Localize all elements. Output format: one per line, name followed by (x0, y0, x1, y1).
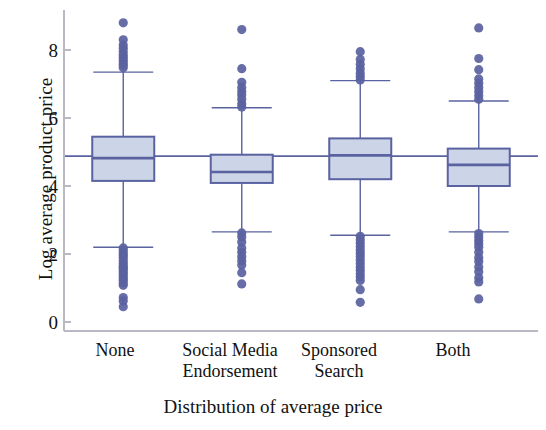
outlier-point (237, 260, 246, 269)
outlier-point (119, 18, 128, 27)
outlier-point (356, 276, 365, 285)
x-tick-label-sponsored-search: Sponsored Search (283, 340, 395, 382)
x-tick-label-both: Both (398, 340, 508, 361)
outlier-point (119, 63, 128, 72)
outlier-point (119, 281, 128, 290)
outlier-point (119, 302, 128, 311)
x-tick-line2: Search (283, 361, 395, 382)
y-tick-label-4: 4 (24, 176, 58, 198)
box-iqr (329, 138, 391, 179)
x-tick-label-social-media-endorsement: Social Media Endorsement (170, 340, 290, 382)
box-plot-chart: Log average product price 8 6 4 2 0 None… (0, 0, 546, 430)
y-tick-label-2: 2 (24, 244, 58, 266)
x-tick-line1: Social Media (170, 340, 290, 361)
outlier-point (356, 285, 365, 294)
outlier-point (237, 268, 246, 277)
x-axis-title: Distribution of average price (0, 396, 546, 418)
outlier-point (474, 54, 483, 63)
x-tick-line1: Both (398, 340, 508, 361)
box-plot-group-none (92, 18, 154, 311)
y-tick-label-8: 8 (24, 40, 58, 62)
outlier-point (237, 279, 246, 288)
box-plot-group-both (448, 23, 510, 303)
outlier-point (474, 95, 483, 104)
outlier-point (474, 23, 483, 32)
x-tick-label-none: None (60, 340, 170, 361)
outlier-point (237, 25, 246, 34)
outlier-point (237, 103, 246, 112)
x-tick-line2: Endorsement (170, 361, 290, 382)
box-plot-group-sponsored-search (329, 47, 391, 307)
y-tick-label-0: 0 (24, 312, 58, 334)
outlier-point (356, 298, 365, 307)
outlier-point (474, 65, 483, 74)
outlier-point (474, 277, 483, 286)
outlier-point (474, 294, 483, 303)
box-plot-group-social-media-endorsement (211, 25, 273, 289)
x-tick-line1: Sponsored (283, 340, 395, 361)
y-tick-label-6: 6 (24, 108, 58, 130)
box-iqr (211, 155, 273, 183)
outlier-point (356, 75, 365, 84)
outlier-point (237, 64, 246, 73)
x-tick-line1: None (60, 340, 170, 361)
box-iqr (448, 149, 510, 186)
